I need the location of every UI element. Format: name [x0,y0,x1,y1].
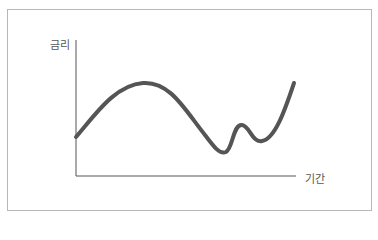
interest-rate-curve [76,83,294,153]
x-axis-label: 기간 [305,170,325,186]
y-axis-label: 금리 [50,36,70,52]
